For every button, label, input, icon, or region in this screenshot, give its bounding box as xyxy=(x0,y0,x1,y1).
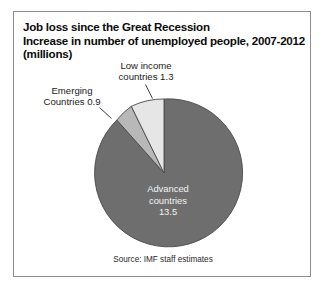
callout-emerging-countries: Emerging Countries 0.9 xyxy=(34,85,110,108)
slice-label-advanced-value: 13.5 xyxy=(124,206,212,218)
callout-low-income-line-2: countries 1.3 xyxy=(107,71,185,82)
callout-low-income-countries: Low income countries 1.3 xyxy=(107,60,185,83)
pie-slice-advanced-countries[interactable] xyxy=(95,99,243,247)
slice-label-advanced-line-2: countries xyxy=(124,195,212,207)
slice-label-advanced-countries: Advanced countries 13.5 xyxy=(124,183,212,218)
callout-emerging-line-1: Emerging xyxy=(34,85,110,96)
source-note: Source: IMF staff estimates xyxy=(14,255,312,264)
figure-frame: Job loss since the Great Recession Incre… xyxy=(13,11,311,277)
pie-chart-svg xyxy=(14,12,312,278)
leader-line-low-income-icon xyxy=(146,85,153,99)
leader-line-emerging-icon xyxy=(100,108,112,119)
pie-chart-plot-area: Low income countries 1.3 Emerging Countr… xyxy=(14,12,312,278)
callout-low-income-line-1: Low income xyxy=(107,60,185,71)
slice-label-advanced-line-1: Advanced xyxy=(124,183,212,195)
callout-emerging-line-2: Countries 0.9 xyxy=(34,96,110,107)
